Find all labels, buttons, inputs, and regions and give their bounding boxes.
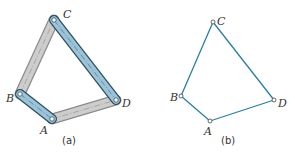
pin-b-a [18,92,22,96]
label-b-b: B [169,91,178,104]
label-d-a: D [121,97,131,110]
pin-a-b [208,119,212,123]
pin-c-b [211,20,215,24]
figure-a: C B A D (a) [5,8,131,146]
link-cd-blue [54,20,116,100]
link-ba-blue [20,94,52,119]
link-ad-gray [52,100,116,119]
pin-d-b [272,98,276,102]
label-b-a: B [5,92,14,105]
pin-b-b [179,94,183,98]
label-c-a: C [63,8,72,21]
pin-d-a [114,98,118,102]
label-a-b: A [203,125,212,138]
label-d-b: D [277,97,287,110]
pin-c-a [52,18,56,22]
label-c-b: C [217,15,226,28]
four-bar-linkage-diagram: C B A D (a) C B A D (b) [0,0,295,152]
schematic-linkage [181,22,274,121]
label-a-a: A [39,124,48,137]
figure-b: C B A D (b) [169,15,287,146]
pin-a-a [50,117,54,121]
caption-a: (a) [62,135,76,146]
caption-b: (b) [221,135,235,146]
link-bc-gray [20,20,54,94]
